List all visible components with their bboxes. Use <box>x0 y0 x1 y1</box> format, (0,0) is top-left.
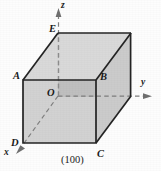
axis-y-arrowhead <box>143 93 152 99</box>
axis-label-y: y <box>141 78 145 88</box>
figure-canvas: A B C D E O z y x (100) <box>0 0 161 171</box>
cube-axes-diagram <box>0 0 161 171</box>
axis-label-z: z <box>61 1 65 11</box>
axis-label-x: x <box>4 148 9 158</box>
figure-caption-miller-index: (100) <box>61 155 84 166</box>
cube-inner-shaded-quadrant <box>58 80 96 97</box>
vertex-label-o: O <box>47 88 55 99</box>
vertex-label-b: B <box>100 72 107 83</box>
vertex-label-d: D <box>11 138 19 149</box>
vertex-label-e: E <box>49 24 56 35</box>
vertex-label-c: C <box>97 149 104 160</box>
vertex-label-a: A <box>13 71 20 82</box>
